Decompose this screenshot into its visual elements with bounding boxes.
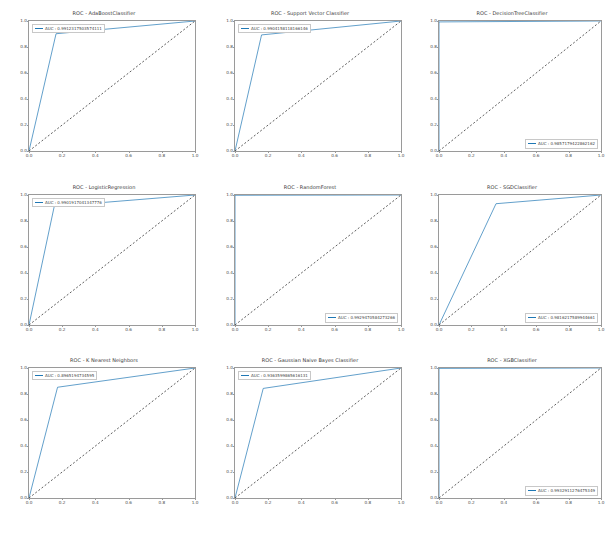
legend: AUC : 0.9816217589944661 <box>525 313 598 322</box>
y-tick-label: 0.6 <box>20 71 27 75</box>
plot-axes: 0.00.20.40.60.81.00.00.20.40.60.81.0AUC … <box>28 194 196 326</box>
y-tick-label: 0.6 <box>20 418 27 422</box>
y-tick-label: 1.0 <box>430 366 437 370</box>
curve-layer <box>29 195 195 325</box>
x-tick-label: 0.0 <box>26 154 33 158</box>
legend-line-swatch <box>35 202 43 203</box>
x-tick-label: 0.2 <box>468 328 475 332</box>
y-tick-label: 1.0 <box>20 193 27 197</box>
y-tick-label: 1.0 <box>226 193 233 197</box>
subplot-title: ROC - DecisionTreeClassifier <box>416 8 608 19</box>
x-tick-label: 0.4 <box>298 154 305 158</box>
x-tick-label: 1.0 <box>398 501 405 505</box>
curve-layer <box>235 195 401 325</box>
y-tick-label: 0.4 <box>430 444 437 448</box>
x-tick-label: 0.8 <box>158 154 165 158</box>
x-tick-label: 0.0 <box>436 154 443 158</box>
x-tick-label: 1.0 <box>398 154 405 158</box>
legend-line-swatch <box>35 375 43 376</box>
y-tick-label: 0.2 <box>226 297 233 301</box>
y-tick-label: 0.2 <box>20 123 27 127</box>
y-tick-label: 0.6 <box>430 71 437 75</box>
roc-subplot: ROC - Gaussian Naive Bayes Classifier0.0… <box>212 355 408 515</box>
plot-axes: 0.00.20.40.60.81.00.00.20.40.60.81.0AUC … <box>234 194 402 326</box>
x-tick-label: 1.0 <box>192 154 199 158</box>
y-tick-label: 0.2 <box>430 123 437 127</box>
legend: AUC : 0.9912317503574111 <box>32 24 105 33</box>
y-tick-label: 1.0 <box>226 366 233 370</box>
legend: AUC : 0.9929470584273266 <box>325 313 398 322</box>
subplot-title: ROC - Gaussian Naive Bayes Classifier <box>212 355 408 366</box>
legend: AUC : 0.9932911276475349 <box>525 486 598 495</box>
y-tick-label: 0.8 <box>20 219 27 223</box>
y-tick-label: 0.4 <box>226 271 233 275</box>
x-tick-label: 0.6 <box>331 154 338 158</box>
x-tick-label: 0.6 <box>125 501 132 505</box>
y-tick-label: 1.0 <box>20 366 27 370</box>
subplot-title: ROC - RandomForest <box>212 182 408 193</box>
y-tick-label: 1.0 <box>226 19 233 23</box>
plot-axes: 0.00.20.40.60.81.00.00.20.40.60.81.0AUC … <box>438 20 602 152</box>
y-tick-label: 0.6 <box>226 71 233 75</box>
legend-line-swatch <box>241 375 249 376</box>
x-tick-label: 0.2 <box>59 154 66 158</box>
y-tick-label: 1.0 <box>430 19 437 23</box>
chance-diagonal-line <box>29 195 195 325</box>
legend-auc-label: AUC : 0.9904158118166146 <box>251 26 308 31</box>
y-tick-label: 0.2 <box>20 297 27 301</box>
y-tick-label: 0.8 <box>430 219 437 223</box>
x-tick-label: 0.8 <box>364 501 371 505</box>
roc-subplot: ROC - K Nearest Neighbors0.00.20.40.60.8… <box>6 355 202 515</box>
y-tick-label: 0.6 <box>20 245 27 249</box>
y-tick-label: 0.8 <box>226 45 233 49</box>
curve-layer <box>29 368 195 498</box>
y-tick-label: 0.4 <box>20 271 27 275</box>
x-tick-label: 0.2 <box>59 501 66 505</box>
chance-diagonal-line <box>439 195 601 325</box>
x-tick-label: 0.8 <box>158 501 165 505</box>
y-tick-label: 1.0 <box>20 19 27 23</box>
legend-auc-label: AUC : 0.9857179422862162 <box>538 141 595 146</box>
legend-auc-label: AUC : 0.9816217589944661 <box>538 315 595 320</box>
chance-diagonal-line <box>439 368 601 498</box>
x-tick-label: 0.6 <box>533 328 540 332</box>
chance-diagonal-line <box>235 368 401 498</box>
x-tick-label: 0.8 <box>364 328 371 332</box>
x-tick-label: 0.2 <box>265 501 272 505</box>
subplot-title: ROC - Support Vector Classifier <box>212 8 408 19</box>
x-tick-label: 0.8 <box>565 328 572 332</box>
y-tick-label: 0.2 <box>430 470 437 474</box>
y-tick-label: 0.2 <box>226 470 233 474</box>
x-tick-label: 1.0 <box>192 501 199 505</box>
roc-subplot: ROC - AdaBoostClassifier0.00.20.40.60.81… <box>6 8 202 168</box>
x-tick-label: 0.0 <box>436 501 443 505</box>
x-tick-label: 0.2 <box>265 154 272 158</box>
curve-layer <box>235 21 401 151</box>
x-tick-label: 0.2 <box>468 501 475 505</box>
roc-subplot: ROC - LogisticRegression0.00.20.40.60.81… <box>6 182 202 342</box>
x-tick-label: 0.4 <box>500 501 507 505</box>
y-tick-label: 0.8 <box>430 392 437 396</box>
legend: AUC : 0.8965194734595 <box>32 371 97 380</box>
roc-curve-figure: ROC - AdaBoostClassifier0.00.20.40.60.81… <box>0 0 614 533</box>
roc-subplot: ROC - SGDClassifier0.00.20.40.60.81.00.0… <box>416 182 608 342</box>
legend: AUC : 0.9363599865616131 <box>238 371 311 380</box>
y-tick-label: 0.4 <box>430 271 437 275</box>
plot-axes: 0.00.20.40.60.81.00.00.20.40.60.81.0AUC … <box>28 20 196 152</box>
plot-axes: 0.00.20.40.60.81.00.00.20.40.60.81.0AUC … <box>438 367 602 499</box>
x-tick-label: 0.6 <box>331 501 338 505</box>
legend: AUC : 0.9904158118166146 <box>238 24 311 33</box>
x-tick-label: 0.4 <box>500 154 507 158</box>
legend: AUC : 0.9857179422862162 <box>525 139 598 148</box>
x-tick-label: 0.6 <box>331 328 338 332</box>
y-tick-label: 0.2 <box>430 297 437 301</box>
y-tick-label: 0.2 <box>20 470 27 474</box>
chance-diagonal-line <box>235 21 401 151</box>
subplot-title: ROC - XGBClassifier <box>416 355 608 366</box>
plot-axes: 0.00.20.40.60.81.00.00.20.40.60.81.0AUC … <box>28 367 196 499</box>
x-tick-label: 0.4 <box>92 501 99 505</box>
y-tick-label: 0.4 <box>226 444 233 448</box>
x-tick-label: 0.0 <box>26 328 33 332</box>
legend: AUC : 0.9901917041347776 <box>32 198 105 207</box>
y-tick-label: 0.8 <box>226 219 233 223</box>
